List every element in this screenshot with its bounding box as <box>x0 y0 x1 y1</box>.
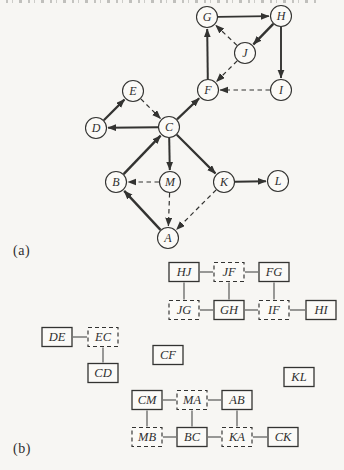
edge-D-E-solid-arrow <box>104 100 125 121</box>
node-H: H <box>271 6 292 27</box>
edge-box-JF-label: JF <box>222 265 236 279</box>
panel-b-label: (b) <box>13 441 31 457</box>
node-J-label: J <box>242 46 248 60</box>
edge-box-KA-label: KA <box>228 430 245 444</box>
edge-K-L-solid-arrow <box>235 181 266 182</box>
edge-box-KL-label: KL <box>290 370 306 384</box>
edge-K-A-dashed-arrow <box>177 190 217 230</box>
edge-box-EC: EC <box>88 328 118 347</box>
edge-box-HI-label: HI <box>313 303 328 317</box>
edge-M-A-dashed-arrow <box>168 193 169 226</box>
edge-box-DE: DE <box>42 328 72 347</box>
edge-box-CF-label: CF <box>160 348 176 362</box>
node-C-label: C <box>165 120 174 134</box>
edge-box-AB-label: AB <box>228 393 245 407</box>
edge-box-CM-label: CM <box>138 393 157 407</box>
edge-box-JF: JF <box>214 263 244 282</box>
node-G: G <box>197 7 218 28</box>
edge-H-J-solid-arrow <box>253 24 273 44</box>
panel-a-label: (a) <box>13 243 30 259</box>
node-H-label: H <box>276 9 287 23</box>
edge-B-C-solid-arrow <box>124 136 161 174</box>
node-F: F <box>198 80 219 101</box>
node-M: M <box>160 172 181 193</box>
edge-box-IF: IF <box>259 301 289 320</box>
edge-G-H-solid-arrow <box>218 16 269 17</box>
edge-box-CD: CD <box>88 364 118 383</box>
edge-A-B-solid-arrow <box>124 191 160 230</box>
node-J: J <box>235 43 256 64</box>
edge-box-MB: MB <box>132 428 162 447</box>
edge-box-CD-label: CD <box>94 366 111 380</box>
node-E: E <box>123 81 144 102</box>
node-A-label: A <box>163 231 172 245</box>
edge-box-EC-label: EC <box>94 330 112 344</box>
edge-box-IF-label: IF <box>267 303 280 317</box>
node-K-label: K <box>219 175 229 189</box>
edge-C-M-solid-arrow <box>169 138 170 170</box>
node-I: I <box>271 80 292 101</box>
edge-box-JG: JG <box>169 301 199 320</box>
node-B-label: B <box>112 175 120 189</box>
edge-C-F-solid-arrow <box>177 98 199 119</box>
edge-box-FG-label: FG <box>265 265 283 279</box>
edge-box-BC-label: BC <box>184 430 201 444</box>
edge-box-GH: GH <box>214 301 244 320</box>
edge-F-G-solid-arrow <box>207 29 208 79</box>
figure-panel: GHJFIEDCBMKLAHJJFFGJGGHIFHIDEECCDCFKLCMM… <box>0 0 344 470</box>
graph-figure-svg: GHJFIEDCBMKLAHJJFFGJGGHIFHIDEECCDCFKLCMM… <box>0 0 344 470</box>
edge-J-F-dashed-arrow <box>217 61 238 82</box>
node-L-label: L <box>274 174 282 188</box>
edge-box-MA-label: MA <box>182 393 201 407</box>
edge-box-JG-label: JG <box>177 303 192 317</box>
edge-box-MA: MA <box>177 391 207 410</box>
edge-box-GH-label: GH <box>220 303 239 317</box>
edge-box-KA: KA <box>222 428 252 447</box>
node-E-label: E <box>128 84 137 98</box>
node-L: L <box>268 171 289 192</box>
edge-box-AB: AB <box>222 391 252 410</box>
edge-box-BC: BC <box>177 428 207 447</box>
edge-box-CK: CK <box>268 428 298 447</box>
node-A: A <box>158 228 179 249</box>
edge-J-G-dashed-arrow <box>216 25 237 45</box>
node-M-label: M <box>164 175 176 189</box>
edge-box-HI: HI <box>306 301 336 320</box>
edge-box-CK-label: CK <box>275 430 292 444</box>
edge-box-HJ-label: HJ <box>176 265 193 279</box>
node-D: D <box>86 118 107 139</box>
edge-C-K-solid-arrow <box>177 135 216 174</box>
edge-E-C-dashed-arrow <box>141 99 161 119</box>
edge-box-MB-label: MB <box>137 430 156 444</box>
node-D-label: D <box>91 121 101 135</box>
edge-box-DE-label: DE <box>48 330 66 344</box>
edge-box-HJ: HJ <box>169 263 199 282</box>
node-B: B <box>106 172 127 193</box>
node-F-label: F <box>203 83 212 97</box>
edge-box-CF: CF <box>153 346 183 365</box>
node-G-label: G <box>203 10 212 24</box>
node-K: K <box>214 172 235 193</box>
node-C: C <box>159 117 180 138</box>
edge-box-CM: CM <box>132 391 162 410</box>
edge-box-KL: KL <box>284 368 314 387</box>
edge-box-FG: FG <box>259 263 289 282</box>
edge-C-D-solid-arrow <box>108 127 158 128</box>
